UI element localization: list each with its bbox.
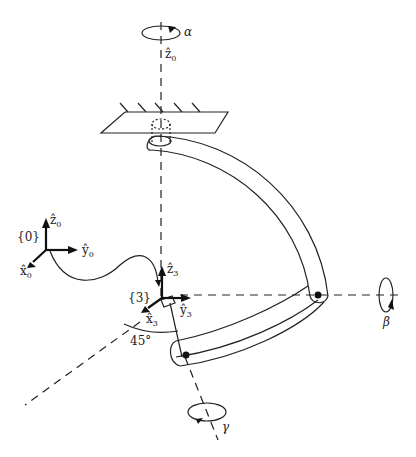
joint-dot-gamma [183, 352, 190, 359]
frame3-x-label: x̂3 [146, 313, 158, 325]
gamma-axis-dashed [185, 357, 218, 440]
ground-hatches [120, 103, 200, 112]
ground-plate [101, 112, 228, 133]
frame3-z-label: ẑ3 [167, 263, 178, 275]
wrist-diagram [0, 0, 416, 457]
frame0-y-label: ŷ0 [82, 244, 94, 256]
beta-label: β [383, 316, 390, 328]
frame0-x-label: x̂0 [20, 265, 32, 277]
cable-curve [50, 251, 158, 282]
gamma-label: γ [222, 421, 229, 433]
cable-arrow-icon [155, 280, 161, 287]
x3-axis-dashed [25, 322, 140, 405]
frame3-label: {3} [128, 292, 151, 304]
joint-dot-beta [315, 292, 322, 299]
frame0-label: {0} [17, 231, 40, 243]
alpha-label: α [184, 26, 192, 38]
z0-axis-label: ẑ0 [165, 48, 176, 60]
alpha-arrow-icon [168, 26, 176, 33]
angle-label: 45° [130, 335, 151, 347]
frame0-z-label: ẑ0 [50, 214, 61, 226]
frame3-y-label: ŷ3 [180, 304, 192, 316]
lower-arc-link [170, 286, 324, 366]
